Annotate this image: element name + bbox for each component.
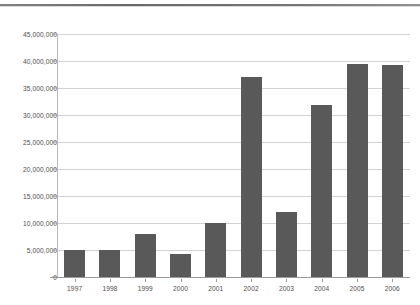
bar[interactable] xyxy=(276,212,297,277)
x-tick-label: 2004 xyxy=(305,285,339,292)
x-axis-labels: 1997199819992000200120022003200420052006 xyxy=(57,279,410,299)
bar[interactable] xyxy=(382,65,403,277)
y-tick-mark xyxy=(52,88,57,89)
x-tick-mark xyxy=(181,279,182,282)
bar[interactable] xyxy=(205,223,226,277)
x-tick-mark xyxy=(357,279,358,282)
x-tick-label: 2002 xyxy=(234,285,268,292)
gridline xyxy=(57,61,410,62)
x-tick-label: 2006 xyxy=(375,285,409,292)
plot-area xyxy=(57,34,410,277)
x-tick-label: 2000 xyxy=(164,285,198,292)
y-tick-label: 40,000,000 xyxy=(5,58,57,65)
bar[interactable] xyxy=(311,105,332,277)
x-axis-line xyxy=(50,277,410,278)
x-tick-label: 1999 xyxy=(128,285,162,292)
y-tick-label: 0 xyxy=(5,274,57,281)
x-tick-label: 2005 xyxy=(340,285,374,292)
y-tick-label: 30,000,000 xyxy=(5,112,57,119)
x-tick-mark xyxy=(75,279,76,282)
x-tick-mark xyxy=(145,279,146,282)
x-tick-mark xyxy=(216,279,217,282)
y-tick-label: 25,000,000 xyxy=(5,139,57,146)
x-tick-label: 1997 xyxy=(58,285,92,292)
bar-chart: 05,000,00010,000,00015,000,00020,000,000… xyxy=(0,0,420,305)
x-tick-mark xyxy=(110,279,111,282)
y-tick-mark xyxy=(52,250,57,251)
y-tick-label: 45,000,000 xyxy=(5,31,57,38)
x-tick-label: 2001 xyxy=(199,285,233,292)
x-tick-mark xyxy=(322,279,323,282)
y-tick-label: 35,000,000 xyxy=(5,85,57,92)
y-tick-mark xyxy=(52,115,57,116)
y-tick-mark xyxy=(52,277,57,278)
x-tick-label: 2003 xyxy=(269,285,303,292)
y-tick-label: 20,000,000 xyxy=(5,166,57,173)
y-axis-labels: 05,000,00010,000,00015,000,00020,000,000… xyxy=(0,0,57,305)
x-tick-label: 1998 xyxy=(93,285,127,292)
y-tick-label: 5,000,000 xyxy=(5,247,57,254)
y-tick-mark xyxy=(52,169,57,170)
y-tick-mark xyxy=(52,142,57,143)
gridline xyxy=(57,34,410,35)
bar[interactable] xyxy=(135,234,156,277)
y-tick-mark xyxy=(52,34,57,35)
y-tick-label: 15,000,000 xyxy=(5,193,57,200)
y-tick-mark xyxy=(52,196,57,197)
bar[interactable] xyxy=(347,64,368,277)
y-tick-mark xyxy=(52,223,57,224)
bar[interactable] xyxy=(241,77,262,277)
x-tick-mark xyxy=(392,279,393,282)
bar[interactable] xyxy=(99,250,120,277)
scan-page-edge-shadow xyxy=(0,6,420,7)
y-axis-line xyxy=(57,34,58,277)
y-tick-mark xyxy=(52,61,57,62)
bar[interactable] xyxy=(170,254,191,277)
bar[interactable] xyxy=(64,250,85,277)
y-tick-label: 10,000,000 xyxy=(5,220,57,227)
x-tick-mark xyxy=(251,279,252,282)
x-tick-mark xyxy=(286,279,287,282)
